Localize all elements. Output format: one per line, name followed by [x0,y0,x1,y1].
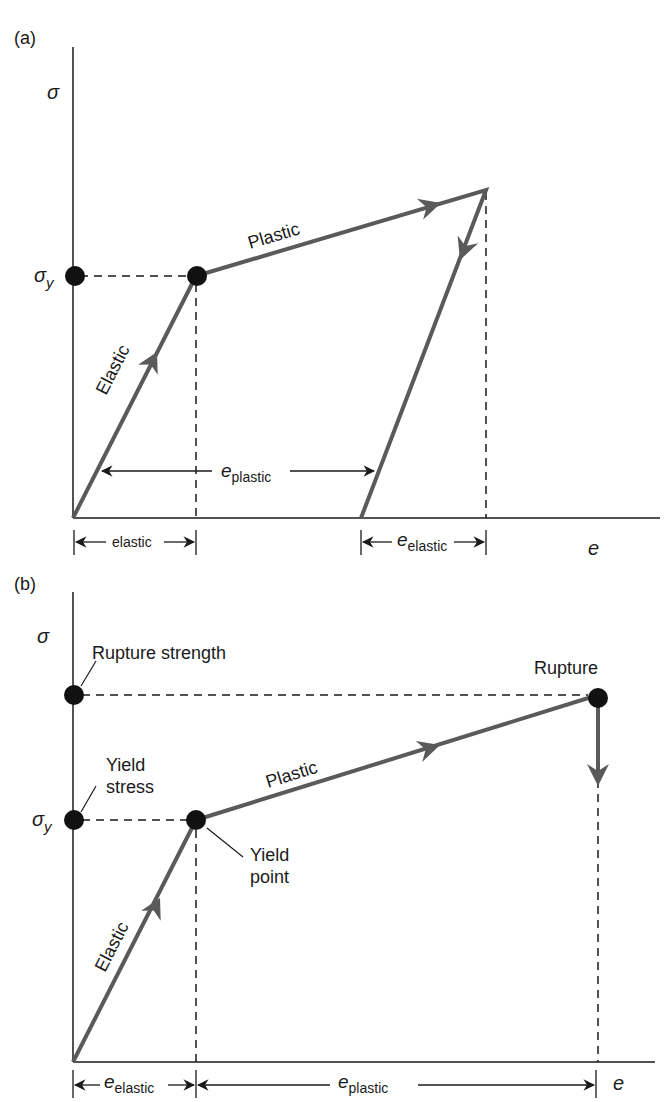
panel-a-elastic-dim-label: elastic [112,534,152,550]
rupture-strength-label: Rupture strength [92,643,226,663]
panel-a-sigma-y-label: σy [34,264,55,291]
yield-stress-label-line2: stress [106,777,154,797]
panel-a-yield-point-dot [187,266,207,286]
panel-b-plastic-arrow-icon [416,734,444,762]
panel-b-plastic-label: Plastic [263,757,320,792]
yield-point-label-line1: Yield [250,845,289,865]
rupture-label: Rupture [534,658,598,678]
rupture-strength-leader [81,661,96,686]
panel-b-curve [73,695,598,1062]
panel-b-x-axis-label: e [613,1072,624,1094]
panel-a-elastic-arrow-icon [138,347,167,375]
panel-a-unload-arrow-icon [450,236,478,264]
panel-b-eelastic-label: eelastic [104,1071,154,1096]
panel-a-x-axis-label: e [588,537,599,559]
panel-a: (a) σ e σy Elastic Plastic eplastic [14,28,660,559]
panel-b: (b) σ e σy Rupture strength Yield stress… [14,574,655,1098]
panel-b-eplastic-label: eplastic [338,1071,388,1096]
panel-a-elastic-label: Elastic [92,341,134,397]
panel-a-label: (a) [14,28,36,48]
panel-b-y-axis-label: σ [37,625,50,647]
yield-point-label-line2: point [250,867,289,887]
panel-b-elastic-label: Elastic [91,918,133,974]
yield-point-leader [207,828,243,857]
panel-a-eelastic-label: eelastic [397,529,447,554]
yield-stress-label-line1: Yield [106,755,145,775]
panel-a-plastic-arrow-icon [417,192,444,219]
rupture-strength-dot [64,685,84,705]
panel-a-y-axis-label: σ [47,81,60,103]
panel-b-label: (b) [14,574,36,594]
panel-b-sigma-y-dot [64,810,84,830]
stress-strain-diagram: (a) σ e σy Elastic Plastic eplastic [0,0,671,1102]
panel-b-sigma-y-label: σy [32,808,53,835]
panel-a-sigma-y-dot [65,266,85,286]
yield-stress-leader [81,786,96,812]
panel-b-yield-point-dot [186,810,206,830]
panel-a-eplastic-label: eplastic [221,460,271,485]
rupture-dot [588,688,608,708]
